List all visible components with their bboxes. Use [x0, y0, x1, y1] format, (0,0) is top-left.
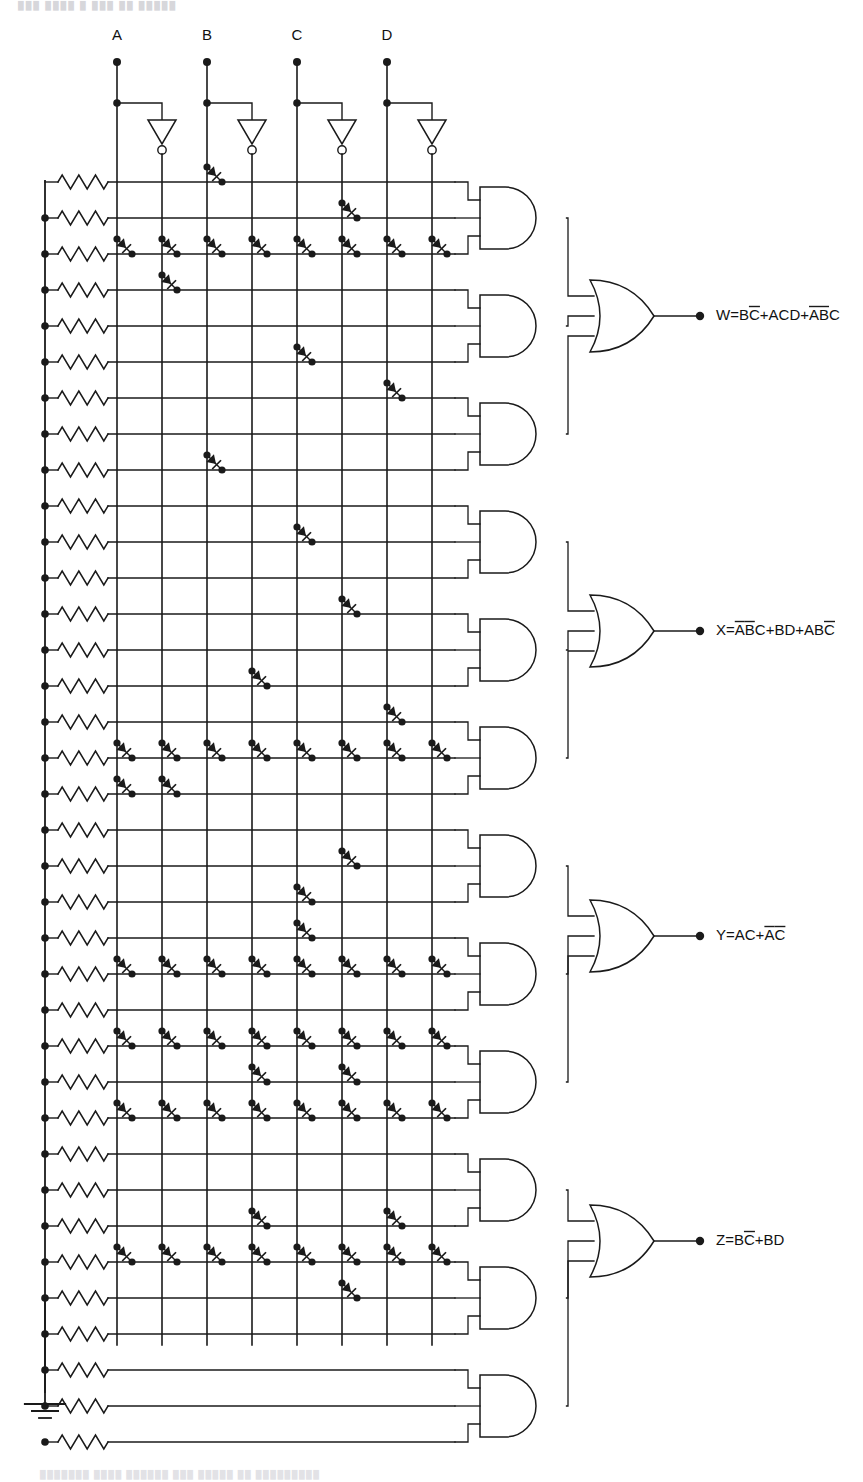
- and-input-1-2: [455, 344, 480, 362]
- and-input-8-2: [455, 1100, 480, 1118]
- inverter-triangle-B: [238, 120, 266, 144]
- inverter-bubble-A: [158, 146, 166, 154]
- resistor-25: [58, 1075, 108, 1089]
- eq-part: C: [774, 926, 785, 943]
- and-input-10-0: [455, 1262, 480, 1280]
- rail-junction-34: [41, 1402, 49, 1410]
- or-input-1-1: [567, 631, 595, 650]
- output-equation-W: W=BC+ACD+ABC: [716, 306, 840, 323]
- and-gate-8: [480, 1051, 536, 1113]
- eq-part: A: [735, 621, 745, 638]
- output-equation-X: X=ABC+BD+ABC: [716, 621, 835, 638]
- eq-part: B: [819, 306, 829, 323]
- and-input-8-0: [455, 1046, 480, 1064]
- resistor-16: [58, 751, 108, 765]
- rail-junction-35: [41, 1438, 49, 1446]
- inverter-input-wire-B: [207, 103, 252, 120]
- output-terminal-X: [696, 627, 704, 635]
- eq-part: X=: [716, 621, 735, 638]
- inverter-input-wire-D: [387, 103, 432, 120]
- resistor-18: [58, 823, 108, 837]
- resistor-13: [58, 643, 108, 657]
- eq-part: W=B: [716, 306, 749, 323]
- resistor-29: [58, 1219, 108, 1233]
- resistor-0: [58, 175, 108, 189]
- resistor-32: [58, 1327, 108, 1341]
- or-input-0-0: [567, 218, 595, 296]
- and-gate-0: [480, 187, 536, 249]
- resistor-1: [58, 211, 108, 225]
- eq-part: Z=B: [716, 1231, 744, 1248]
- resistor-3: [58, 283, 108, 297]
- resistor-19: [58, 859, 108, 873]
- and-input-4-0: [455, 614, 480, 632]
- eq-part: +BD: [755, 1231, 785, 1248]
- and-input-7-0: [455, 938, 480, 956]
- resistor-21: [58, 931, 108, 945]
- eq-part: C: [829, 306, 840, 323]
- or-gate-2: [590, 900, 654, 972]
- and-input-11-0: [455, 1370, 480, 1388]
- resistor-31: [58, 1291, 108, 1305]
- scan-artifact-bottom: ███████ ████ ██████ ███ █████ ██ ███████…: [40, 1470, 320, 1479]
- resistor-7: [58, 427, 108, 441]
- output-equation-Y: Y=AC+AC: [716, 926, 785, 943]
- resistor-34: [58, 1399, 108, 1413]
- input-label-A: A: [112, 26, 122, 43]
- and-gate-6: [480, 835, 536, 897]
- and-input-0-2: [455, 236, 480, 254]
- eq-part: A: [764, 926, 774, 943]
- pla-diode-matrix-diagram: ABCDW=BC+ACD+ABCX=ABC+BD+ABCY=AC+ACZ=BC+…: [0, 0, 863, 1482]
- and-input-11-2: [455, 1424, 480, 1442]
- resistor-17: [58, 787, 108, 801]
- inverter-bubble-D: [428, 146, 436, 154]
- and-gate-1: [480, 295, 536, 357]
- or-input-3-1: [567, 1241, 595, 1298]
- and-input-3-0: [455, 506, 480, 524]
- eq-part: A: [809, 306, 819, 323]
- or-input-3-2: [567, 1261, 595, 1406]
- and-gate-5: [480, 727, 536, 789]
- resistor-27: [58, 1147, 108, 1161]
- or-gate-0: [590, 280, 654, 352]
- resistor-22: [58, 967, 108, 981]
- resistor-23: [58, 1003, 108, 1017]
- output-terminal-W: [696, 312, 704, 320]
- and-input-5-2: [455, 776, 480, 794]
- and-gate-10: [480, 1267, 536, 1329]
- input-label-D: D: [382, 26, 393, 43]
- resistor-6: [58, 391, 108, 405]
- resistor-15: [58, 715, 108, 729]
- eq-part: Y=AC+: [716, 926, 765, 943]
- eq-part: +ACD+: [760, 306, 809, 323]
- resistor-26: [58, 1111, 108, 1125]
- resistor-5: [58, 355, 108, 369]
- inverter-bubble-C: [338, 146, 346, 154]
- or-input-1-0: [567, 542, 595, 611]
- resistor-24: [58, 1039, 108, 1053]
- input-label-C: C: [292, 26, 303, 43]
- resistor-14: [58, 679, 108, 693]
- inverter-input-wire-C: [297, 103, 342, 120]
- resistor-2: [58, 247, 108, 261]
- or-gate-3: [590, 1205, 654, 1277]
- and-input-6-0: [455, 830, 480, 848]
- resistor-33: [58, 1363, 108, 1377]
- resistor-10: [58, 535, 108, 549]
- output-terminal-Y: [696, 932, 704, 940]
- output-terminal-Z: [696, 1237, 704, 1245]
- eq-part: B: [745, 621, 755, 638]
- resistor-35: [58, 1435, 108, 1449]
- and-input-3-2: [455, 560, 480, 578]
- resistor-8: [58, 463, 108, 477]
- inverter-triangle-D: [418, 120, 446, 144]
- and-input-10-2: [455, 1316, 480, 1334]
- output-equation-Z: Z=BC+BD: [716, 1231, 785, 1248]
- and-gate-2: [480, 403, 536, 465]
- and-input-9-0: [455, 1154, 480, 1172]
- and-gate-4: [480, 619, 536, 681]
- resistor-4: [58, 319, 108, 333]
- and-gate-7: [480, 943, 536, 1005]
- inverter-triangle-A: [148, 120, 176, 144]
- or-input-2-0: [567, 866, 595, 916]
